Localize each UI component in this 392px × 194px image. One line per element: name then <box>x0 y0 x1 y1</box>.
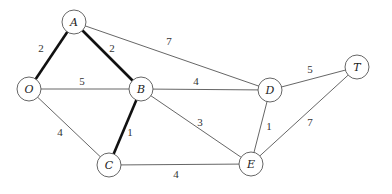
nodes-layer: AOBCDET <box>17 10 369 177</box>
edge-weight-t-e: 7 <box>307 116 313 128</box>
edge-weight-d-e: 1 <box>266 120 272 132</box>
node-e: E <box>239 152 263 176</box>
edge-weights-layer: 227545413174 <box>38 35 313 180</box>
edge-weight-a-b: 2 <box>109 42 115 54</box>
edge-weight-b-d: 4 <box>193 75 199 87</box>
edges-layer <box>29 22 357 165</box>
edge-weight-c-e: 4 <box>173 168 179 180</box>
edge-weight-d-t: 5 <box>307 63 313 75</box>
node-d: D <box>258 78 282 102</box>
node-label: O <box>24 83 33 96</box>
edge-weight-b-e: 3 <box>197 116 203 128</box>
edge-c-e <box>109 164 251 165</box>
edge-weight-o-c: 4 <box>57 126 63 138</box>
node-label: A <box>69 16 78 29</box>
edge-weight-o-a: 2 <box>38 42 44 54</box>
node-label: D <box>265 84 275 97</box>
edge-b-e <box>141 89 251 164</box>
edge-a-d <box>74 22 270 90</box>
node-b: B <box>129 77 153 101</box>
edge-weight-a-d: 7 <box>166 35 172 47</box>
node-label: E <box>246 158 255 171</box>
edge-b-d <box>141 89 270 90</box>
weighted-graph: 227545413174 AOBCDET <box>0 0 392 194</box>
node-label: B <box>136 83 145 96</box>
node-c: C <box>97 153 121 177</box>
edge-weight-o-b: 5 <box>79 75 85 87</box>
edge-weight-b-c: 1 <box>127 126 133 138</box>
node-a: A <box>62 10 86 34</box>
node-o: O <box>17 77 41 101</box>
node-label: C <box>105 159 114 172</box>
node-t: T <box>345 55 369 79</box>
edge-o-c <box>29 89 109 165</box>
